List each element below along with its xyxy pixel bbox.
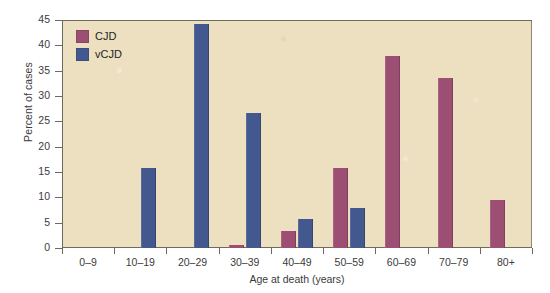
legend-item-cjd: CJD (76, 28, 122, 44)
y-axis-tick-label: 5 (8, 216, 50, 228)
legend-swatch-cjd (76, 30, 89, 43)
legend-label-cjd: CJD (95, 30, 116, 42)
chart-legend: CJDvCJD (76, 28, 122, 64)
y-axis-tick-label: 15 (8, 165, 50, 177)
legend-swatch-vcjd (76, 48, 89, 61)
y-axis-tick-mark (55, 20, 62, 21)
bar-cjd-30_39 (229, 245, 244, 248)
x-axis-tick-mark (114, 248, 115, 254)
x-axis-tick-mark (323, 248, 324, 254)
x-axis-tick-mark (428, 248, 429, 254)
x-axis-tick-mark (375, 248, 376, 254)
bar-cjd-70_79 (438, 78, 453, 248)
bar-vcjd-30_39 (246, 113, 261, 248)
y-axis-tick-label: 35 (8, 64, 50, 76)
y-axis-tick-mark (55, 172, 62, 173)
legend-item-vcjd: vCJD (76, 46, 122, 62)
y-axis-tick-label: 20 (8, 140, 50, 152)
x-axis-tick-label: 80+ (474, 256, 538, 268)
y-axis-tick-mark (55, 121, 62, 122)
y-axis-tick-mark (55, 96, 62, 97)
x-axis-tick-mark (480, 248, 481, 254)
bar-vcjd-40_49 (298, 219, 313, 248)
bar-vcjd-10_19 (141, 168, 156, 248)
bar-vcjd-50_59 (350, 208, 365, 248)
y-axis-tick-label: 10 (8, 190, 50, 202)
y-axis-tick-label: 45 (8, 13, 50, 25)
bar-cjd-80+ (490, 200, 505, 248)
x-axis-title: Age at death (years) (62, 273, 532, 285)
legend-label-vcjd: vCJD (95, 48, 122, 60)
y-axis-tick-mark (55, 45, 62, 46)
y-axis-tick-mark (55, 147, 62, 148)
y-axis-tick-label: 25 (8, 114, 50, 126)
bar-cjd-40_49 (281, 231, 296, 248)
bar-vcjd-20_29 (194, 24, 209, 248)
y-axis-tick-mark (55, 248, 62, 249)
y-axis-tick-label: 30 (8, 89, 50, 101)
x-axis-tick-mark (532, 248, 533, 254)
y-axis-tick-label: 40 (8, 38, 50, 50)
x-axis-tick-mark (271, 248, 272, 254)
y-axis-tick-mark (55, 197, 62, 198)
bar-cjd-60_69 (385, 56, 400, 248)
bar-chart: Percent of cases 051015202530354045 0–91… (0, 0, 550, 293)
y-axis-tick-label: 0 (8, 241, 50, 253)
bar-cjd-50_59 (333, 168, 348, 248)
y-axis-tick-mark (55, 71, 62, 72)
x-axis-tick-mark (166, 248, 167, 254)
bars-layer (62, 20, 532, 248)
x-axis-tick-mark (62, 248, 63, 254)
y-axis-tick-mark (55, 223, 62, 224)
x-axis-tick-mark (219, 248, 220, 254)
